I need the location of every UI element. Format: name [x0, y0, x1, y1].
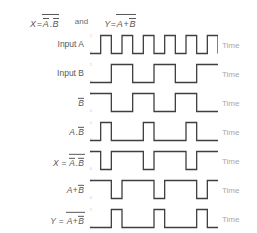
waveform-row-label-wrap: B: [0, 88, 84, 117]
waveform-row-label: B: [2, 97, 84, 107]
waveform-row: A+B10 Time: [0, 175, 257, 204]
equation-x-a-overbar: A: [43, 18, 49, 29]
waveform-row: Y = A+B10 Time: [0, 204, 257, 233]
equation-x-operand-b: B: [53, 19, 59, 29]
waveform-row: X = A.B10 Time: [0, 146, 257, 175]
equation-y-b-overbar: B: [129, 18, 135, 29]
equation-x-outer-overbar: A . B: [43, 14, 59, 29]
waveform-row-label-wrap: A+B: [0, 175, 84, 204]
waveform-trace: [90, 149, 218, 172]
waveform-row: A.B10 Time: [0, 117, 257, 146]
waveform-row: Input A10 Time: [0, 30, 257, 59]
waveform-row-label-wrap: A.B: [0, 117, 84, 146]
equation-x-operand-a: A: [43, 19, 49, 29]
time-axis-label: Time: [222, 40, 239, 49]
waveform-row: Input B10 Time: [0, 59, 257, 88]
equation-header: X = A . B and Y = A+ B: [0, 12, 257, 30]
waveform-row-label-wrap: Input B: [0, 59, 84, 88]
equation-conjunction: and: [75, 17, 88, 26]
equation-x: X = A . B: [30, 14, 59, 29]
waveform-row-label-wrap: Y = A+B: [0, 204, 84, 233]
waveform-trace: [90, 207, 218, 230]
waveform-trace: [90, 178, 218, 201]
waveform-trace: [90, 33, 218, 56]
waveform-row-label: X = A.B: [2, 153, 84, 167]
waveform-row-label: Y = A+B: [2, 211, 84, 225]
waveform-trace: [90, 91, 218, 114]
time-axis-label: Time: [222, 98, 239, 107]
waveform-row-label-wrap: X = A.B: [0, 146, 84, 175]
time-axis-label: Time: [222, 156, 239, 165]
time-axis-label: Time: [222, 185, 239, 194]
equation-y: Y = A+ B: [104, 14, 136, 29]
waveform-trace: [90, 62, 218, 85]
waveform-row-label: Input B: [2, 69, 84, 78]
waveform-trace: [90, 120, 218, 143]
equation-y-outer-overbar: A+ B: [117, 14, 136, 29]
waveform-row-label-wrap: Input A: [0, 30, 84, 59]
waveform-row-label: A+B: [2, 184, 84, 194]
time-axis-label: Time: [222, 69, 239, 78]
waveform-row-label: A.B: [2, 126, 84, 136]
waveform-row-label: Input A: [2, 40, 84, 49]
time-axis-label: Time: [222, 127, 239, 136]
timing-diagram: Input A10 TimeInput B10 TimeB10 TimeA.B1…: [0, 30, 257, 233]
waveform-row: B10 Time: [0, 88, 257, 117]
equation-y-operand-b: B: [129, 19, 135, 29]
equation-x-b-overbar: B: [53, 18, 59, 29]
time-axis-label: Time: [222, 214, 239, 223]
